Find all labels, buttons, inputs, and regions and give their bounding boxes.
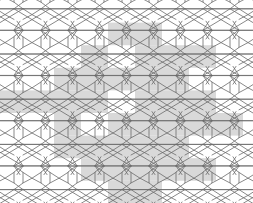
tiling-canvas: [0, 0, 253, 203]
tiling-figure: [0, 0, 253, 203]
